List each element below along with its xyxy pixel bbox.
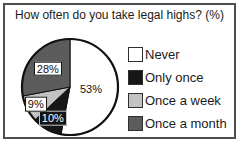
legend-swatch-only-once bbox=[128, 70, 143, 85]
slice-label-once-a-week: 9% bbox=[25, 97, 47, 112]
chart-figure: How often do you take legal highs? (%) 5… bbox=[0, 0, 246, 149]
legend: NeverOnly onceOnce a weekOnce a month bbox=[128, 43, 227, 135]
legend-label-once-a-week: Once a week bbox=[145, 93, 221, 108]
pie-chart bbox=[18, 35, 122, 139]
slice-label-never: 53% bbox=[80, 83, 102, 96]
legend-label-never: Never bbox=[145, 47, 180, 62]
legend-label-only-once: Only once bbox=[145, 70, 204, 85]
legend-item-never: Never bbox=[128, 43, 227, 66]
chart-title: How often do you take legal highs? (%) bbox=[5, 8, 234, 22]
legend-item-only-once: Only once bbox=[128, 66, 227, 89]
chart-frame: How often do you take legal highs? (%) 5… bbox=[3, 3, 236, 139]
pie-chart-area: 53%10%9%28% bbox=[18, 35, 122, 139]
slice-label-once-a-month: 28% bbox=[34, 61, 62, 76]
legend-swatch-once-a-week bbox=[128, 93, 143, 108]
legend-item-once-a-month: Once a month bbox=[128, 112, 227, 135]
slice-label-only-once: 10% bbox=[39, 111, 67, 126]
legend-swatch-never bbox=[128, 47, 143, 62]
legend-label-once-a-month: Once a month bbox=[145, 116, 227, 131]
legend-item-once-a-week: Once a week bbox=[128, 89, 227, 112]
legend-swatch-once-a-month bbox=[128, 116, 143, 131]
